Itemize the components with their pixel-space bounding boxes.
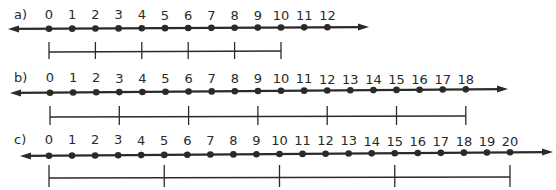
point-dot (185, 25, 192, 32)
tick-number: 2 (92, 70, 100, 85)
point-dot (230, 151, 237, 158)
segment-line (49, 51, 281, 52)
tick-number: 8 (231, 71, 239, 86)
point-dot (461, 149, 468, 156)
tick-number: 18 (458, 72, 475, 87)
point-dot (278, 88, 285, 95)
tick-number: 6 (184, 71, 192, 86)
arrow-right-icon (542, 149, 553, 156)
point-dot (232, 88, 239, 95)
point-dot (139, 89, 146, 96)
number-line-exercise: a)0123456789101112b)01234567891011121314… (0, 0, 556, 190)
tick-number: 14 (365, 72, 382, 87)
tick-number: 11 (294, 133, 311, 148)
arrow-right-icon (497, 86, 508, 93)
number-line-a: a)0123456789101112 (8, 7, 369, 59)
tick-number: 4 (138, 71, 146, 86)
tick-number: 13 (342, 72, 359, 87)
tick-number: 13 (340, 133, 357, 148)
number-lines-figure: a)0123456789101112b)01234567891011121314… (0, 0, 556, 190)
point-dot (368, 150, 375, 157)
tick-number: 7 (206, 133, 214, 148)
tick-number: 8 (230, 8, 238, 23)
point-dot (347, 87, 354, 94)
point-dot (231, 24, 238, 31)
number-line-b: b)0123456789101112131415161718 (10, 70, 508, 125)
row-label: a) (14, 7, 27, 22)
arrow-left-icon (20, 153, 31, 160)
point-dot (162, 25, 169, 32)
tick-number: 17 (433, 134, 450, 149)
tick-number: 9 (252, 133, 260, 148)
point-dot (161, 152, 168, 159)
point-dot (93, 89, 100, 96)
tick-number: 2 (91, 7, 99, 22)
point-dot (115, 25, 122, 32)
point-dot (185, 88, 192, 95)
arrow-right-icon (358, 24, 369, 31)
row-label: c) (14, 132, 26, 147)
tick-number: 2 (91, 132, 99, 147)
point-dot (116, 89, 123, 96)
point-dot (46, 152, 53, 159)
tick-number: 10 (273, 71, 290, 86)
point-dot (276, 151, 283, 158)
tick-number: 1 (68, 132, 76, 147)
point-dot (254, 24, 261, 31)
point-dot (391, 150, 398, 157)
tick-number: 9 (254, 8, 262, 23)
row-label: b) (14, 70, 27, 85)
point-dot (70, 89, 77, 96)
tick-number: 8 (229, 133, 237, 148)
tick-number: 7 (207, 8, 215, 23)
tick-number: 7 (208, 71, 216, 86)
tick-number: 17 (434, 72, 451, 87)
tick-number: 0 (46, 70, 54, 85)
tick-number: 15 (388, 72, 405, 87)
point-dot (184, 151, 191, 158)
point-dot (416, 86, 423, 93)
tick-number: 6 (183, 133, 191, 148)
point-dot (69, 152, 76, 159)
point-dot (92, 25, 99, 32)
point-dot (484, 149, 491, 156)
tick-number: 6 (184, 8, 192, 23)
point-dot (324, 24, 331, 31)
point-dot (301, 87, 308, 94)
tick-number: 16 (411, 72, 428, 87)
point-dot (47, 89, 54, 96)
axis-line (26, 152, 547, 156)
point-dot (138, 152, 145, 159)
point-dot (507, 149, 514, 156)
tick-number: 4 (138, 7, 146, 22)
point-dot (92, 152, 99, 159)
tick-number: 18 (456, 134, 473, 149)
tick-number: 10 (271, 133, 288, 148)
tick-number: 10 (273, 8, 290, 23)
point-dot (345, 150, 352, 157)
point-dot (324, 87, 331, 94)
tick-number: 12 (317, 133, 334, 148)
tick-number: 3 (114, 7, 122, 22)
number-line-c: c)01234567891011121314151617181920 (14, 132, 553, 187)
tick-number: 15 (386, 134, 403, 149)
tick-number: 20 (502, 134, 519, 149)
tick-number: 3 (114, 132, 122, 147)
point-dot (322, 150, 329, 157)
point-dot (253, 151, 260, 158)
point-dot (393, 87, 400, 94)
tick-number: 0 (45, 7, 53, 22)
point-dot (139, 25, 146, 32)
tick-number: 1 (69, 70, 77, 85)
arrow-left-icon (8, 26, 19, 33)
tick-number: 4 (137, 133, 145, 148)
tick-number: 1 (68, 7, 76, 22)
tick-number: 14 (363, 134, 380, 149)
tick-number: 9 (254, 71, 262, 86)
tick-number: 0 (45, 132, 53, 147)
point-dot (207, 151, 214, 158)
tick-number: 12 (319, 72, 336, 87)
point-dot (301, 24, 308, 31)
tick-number: 11 (296, 8, 313, 23)
point-dot (208, 25, 215, 32)
